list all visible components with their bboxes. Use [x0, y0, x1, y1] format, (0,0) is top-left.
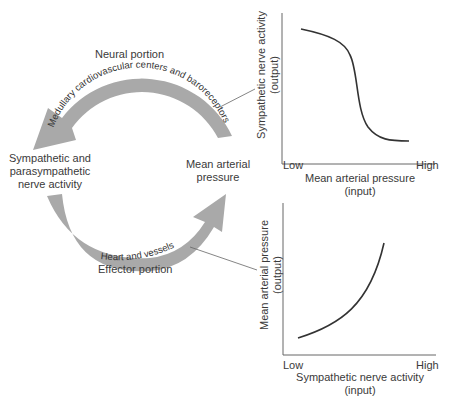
top-chart-xlabel-line1: Mean arterial pressure — [300, 172, 420, 185]
left-node-label: Sympathetic and parasympathetic nerve ac… — [6, 152, 94, 191]
left-node-line2: parasympathetic — [6, 165, 94, 178]
bottom-chart-xlabel-line2: (input) — [290, 384, 430, 397]
bottom-chart-xlabel: Sympathetic nerve activity (input) — [290, 371, 430, 397]
top-chart-curve — [301, 29, 409, 141]
top-chart-xlabel-line2: (input) — [300, 185, 420, 198]
left-node-line3: nerve activity — [6, 178, 94, 191]
bottom-chart-xlabel-line1: Sympathetic nerve activity — [290, 371, 430, 384]
connector-line-bottom — [190, 247, 257, 270]
bottom-chart-curve — [298, 243, 384, 338]
bottom-chart-ylabel-line2: (output) — [271, 215, 284, 335]
top-chart-x-high: High — [416, 159, 439, 172]
effector-arrow: Heart and vessels — [47, 194, 226, 271]
top-chart-xlabel: Mean arterial pressure (input) — [300, 172, 420, 198]
bottom-chart-ylabel-line1: Mean arterial pressure — [258, 215, 271, 335]
top-chart-x-low: Low — [283, 159, 303, 172]
right-node-label: Mean arterial pressure — [183, 158, 253, 184]
neural-arrow: Medullary cardiovascular centers and bar… — [33, 59, 233, 150]
top-chart-ylabel-line2: (output) — [268, 10, 281, 140]
top-chart — [282, 13, 435, 164]
diagram-canvas: Medullary cardiovascular centers and bar… — [0, 0, 450, 410]
effector-portion-label: Effector portion — [98, 263, 172, 276]
right-node-line1: Mean arterial — [183, 158, 253, 171]
top-chart-ylabel: Sympathetic nerve activity (output) — [255, 10, 281, 140]
bottom-chart — [283, 203, 436, 355]
left-node-line1: Sympathetic and — [6, 152, 94, 165]
connector-line-top — [220, 89, 255, 107]
top-chart-ylabel-line1: Sympathetic nerve activity — [255, 10, 268, 140]
right-node-line2: pressure — [183, 171, 253, 184]
bottom-chart-ylabel: Mean arterial pressure (output) — [258, 215, 284, 335]
neural-portion-label: Neural portion — [95, 48, 164, 61]
